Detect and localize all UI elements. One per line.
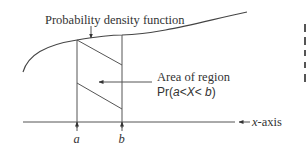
x-axis-label: x-axis [251,115,282,129]
bound-a-label: a [74,132,80,146]
region-label-line2: Pr(a<X< b) [157,85,216,99]
region-label-line1: Area of region [157,70,231,84]
pdf-area-diagram: Probability density function Area of reg… [0,0,308,153]
hatch-line-2 [77,83,122,109]
hatch-line-1 [77,40,122,65]
bound-b-label: b [119,132,125,146]
cropped-text-fragments [304,24,306,82]
pdf-title-label: Probability density function [45,13,185,27]
